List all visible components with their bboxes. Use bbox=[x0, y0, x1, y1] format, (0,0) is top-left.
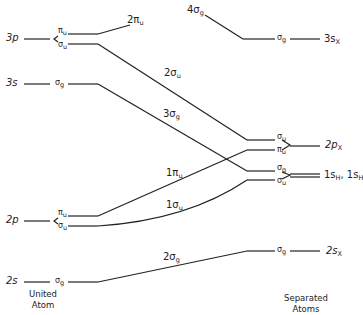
separated-atoms-label: SeparatedAtoms bbox=[278, 293, 334, 315]
line-2piu bbox=[98, 25, 130, 34]
ua-2s-sigma-label: σg bbox=[55, 277, 64, 287]
sa-2sx-label: 2sX bbox=[326, 246, 342, 258]
mo-2sg-label: 2σg bbox=[163, 252, 180, 264]
ua-3p-sigma-label: σu bbox=[58, 41, 67, 51]
sa-2p-pi-label: πu bbox=[277, 146, 286, 156]
sa-1sh-label: 1sH, 1sH bbox=[324, 170, 363, 182]
ua-2p-sigma-label: σu bbox=[58, 222, 67, 232]
sa-3s-sigma-label: σg bbox=[277, 34, 286, 44]
sa-2s-sigma-label: σg bbox=[277, 246, 286, 256]
mo-2piu-label: 2πu bbox=[127, 15, 144, 27]
sa-2px-label: 2pX bbox=[325, 140, 342, 152]
mo-4sg-label: 4σg bbox=[187, 5, 204, 17]
ua-3p-label: 3p bbox=[6, 33, 19, 43]
mo-1su-label: 1σu bbox=[166, 200, 183, 212]
ua-3s-sigma-label: σg bbox=[55, 79, 64, 89]
sa-2p-sigma-label: σu bbox=[277, 133, 286, 143]
sa-3sx-label: 3sX bbox=[324, 34, 340, 46]
mo-1piu-label: 1πu bbox=[166, 168, 183, 180]
sa-1s-sigma-g-label: σg bbox=[277, 164, 286, 174]
sa-1s-sigma-u-label: σu bbox=[277, 177, 286, 187]
ua-3p-pi-label: πu bbox=[58, 27, 67, 37]
diagram-lines bbox=[0, 0, 363, 315]
ua-3s-label: 3s bbox=[6, 78, 18, 88]
line-4sg bbox=[205, 15, 243, 39]
mo-2su-label: 2σu bbox=[164, 68, 181, 80]
ua-2s-label: 2s bbox=[6, 276, 18, 286]
line-3sg bbox=[98, 84, 247, 171]
ua-2p-label: 2p bbox=[6, 215, 19, 225]
ua-2p-pi-label: πu bbox=[58, 209, 67, 219]
mo-3sg-label: 3σg bbox=[163, 109, 180, 121]
line-2su bbox=[98, 44, 247, 140]
correlation-diagram: 3p πu σu 2πu 4σg σg 3sX 3s σg 2σu 3σg 1π… bbox=[0, 0, 363, 315]
united-atom-label: UnitedAtom bbox=[22, 289, 64, 312]
